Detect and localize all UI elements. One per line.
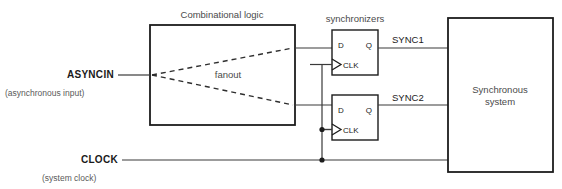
clock-label: CLOCK [81,154,119,165]
flipflop-1-q-label: Q [366,41,372,50]
junction-dot-clock-bus [319,157,324,162]
flipflop-2-clk-label: CLK [343,126,359,135]
asyncin-label: ASYNCIN [67,69,114,80]
synchronizers-label: synchronizers [326,13,385,24]
logic-diagram: Combinational logic fanout synchronizers… [0,0,562,189]
asyncin-note-label: (asynchronous input) [5,88,85,98]
fanout-label: fanout [215,69,242,80]
flipflop-2-q-label: Q [366,106,372,115]
synchronous-system-label-line2: system [485,96,515,107]
schematic-canvas: Combinational logic fanout synchronizers… [0,0,562,189]
sync1-label: SYNC1 [392,34,424,45]
synchronous-system-box [448,18,553,172]
clock-riser-wire [322,65,332,161]
flipflop-1-clk-label: CLK [343,61,359,70]
sync2-label: SYNC2 [392,92,424,103]
synchronous-system-label-line1: Synchronous [472,84,528,95]
flipflop-2-d-label: D [338,106,344,115]
junction-dot-clk2 [319,127,324,132]
combinational-logic-label: Combinational logic [181,9,264,20]
clock-note-label: (system clock) [42,173,96,183]
flipflop-1-d-label: D [338,41,344,50]
